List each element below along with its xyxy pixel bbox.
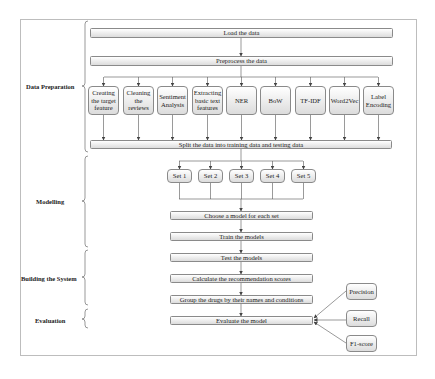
section-label-building-system: Building the System: [21, 275, 77, 282]
step-group-drugs[interactable]: Group the drugs by their names and condi…: [170, 295, 313, 304]
step-test-models[interactable]: Test the models: [170, 253, 313, 262]
feature-box-label-encoding[interactable]: Label Encoding: [363, 86, 394, 115]
section-label-modelling: Modelling: [36, 198, 64, 205]
set-box-2[interactable]: Set 2: [198, 169, 223, 183]
section-label-data-preparation: Data Preparation: [26, 83, 74, 90]
feature-box-word2vec[interactable]: Word2Vec: [329, 86, 360, 115]
arrow-precision-evaluate: [314, 291, 346, 318]
step-split-data[interactable]: Split the data into training data and te…: [90, 140, 392, 149]
set-box-3[interactable]: Set 3: [229, 169, 254, 183]
feature-box-sentiment-analysis[interactable]: Sentiment Analysis: [157, 86, 188, 115]
set-box-1[interactable]: Set 1: [167, 169, 192, 183]
section-label-evaluation: Evaluation: [35, 317, 65, 324]
brace-modelling: [82, 156, 88, 247]
set-box-5[interactable]: Set 5: [291, 169, 316, 183]
brace-building-system: [82, 250, 88, 305]
feature-box-bow[interactable]: BoW: [260, 86, 291, 115]
step-preprocess-data[interactable]: Preprocess the data: [90, 56, 393, 66]
feature-box-cleaning-the-reviews[interactable]: Cleaning the reviews: [123, 86, 154, 115]
arrow-f1-evaluate: [314, 322, 346, 343]
step-evaluate-model[interactable]: Evaluate the model: [170, 316, 313, 325]
feature-box-ner[interactable]: NER: [226, 86, 257, 115]
brace-data-preparation: [82, 21, 88, 152]
metric-recall[interactable]: Recall: [346, 310, 377, 327]
feature-box-extracting-basic-text-features[interactable]: Extracting basic text features: [192, 86, 223, 115]
step-train-models[interactable]: Train the models: [170, 232, 313, 241]
feature-box-creating-the-target-feature[interactable]: Creating the target feature: [88, 86, 119, 115]
step-choose-model[interactable]: Choose a model for each set: [170, 211, 313, 220]
step-load-data[interactable]: Load the data: [90, 28, 393, 38]
brace-evaluation: [82, 309, 88, 328]
set-box-4[interactable]: Set 4: [260, 169, 285, 183]
metric-f1-score[interactable]: F1-score: [346, 335, 377, 352]
feature-box-tf-idf[interactable]: TF-IDF: [295, 86, 326, 115]
metric-precision[interactable]: Precision: [346, 283, 377, 300]
step-calculate-scores[interactable]: Calculate the recommendation scores: [170, 274, 313, 283]
